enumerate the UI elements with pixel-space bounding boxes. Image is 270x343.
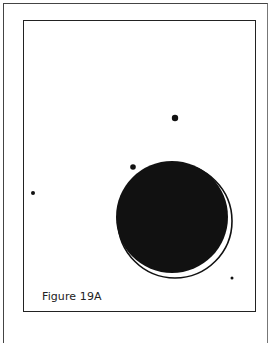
dot (231, 277, 234, 280)
figure-caption: Figure 19A (42, 290, 102, 303)
dot (130, 164, 136, 170)
dot (172, 115, 178, 121)
dot (31, 191, 35, 195)
large-filled-circle (116, 161, 228, 273)
